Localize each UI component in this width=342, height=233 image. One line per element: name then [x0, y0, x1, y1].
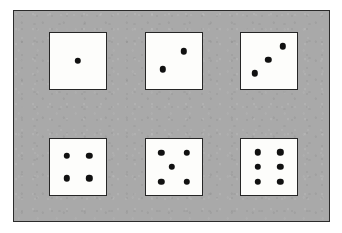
pip-icon [64, 153, 70, 159]
pip-icon [277, 178, 283, 184]
die-five [145, 138, 203, 196]
pip-icon [255, 178, 261, 184]
pip-icon [265, 57, 271, 63]
pip-icon [158, 178, 164, 184]
die-one [49, 32, 107, 90]
pip-icon [277, 149, 283, 155]
gray-background-panel [13, 10, 330, 222]
pip-icon [277, 164, 283, 170]
pip-icon [160, 66, 166, 72]
pip-icon [75, 58, 81, 64]
pip-icon [280, 43, 286, 49]
pip-icon [252, 70, 258, 76]
pip-icon [255, 149, 261, 155]
pip-icon [255, 164, 261, 170]
pip-icon [169, 164, 175, 170]
pip-icon [64, 175, 70, 181]
pip-icon [86, 153, 92, 159]
die-three [240, 32, 298, 90]
pip-icon [184, 150, 190, 156]
die-two [145, 32, 203, 90]
pip-icon [184, 178, 190, 184]
dice-figure [0, 0, 342, 233]
die-four [49, 138, 107, 196]
die-six [240, 138, 298, 196]
pip-icon [86, 175, 92, 181]
pip-icon [158, 150, 164, 156]
pip-icon [181, 48, 187, 54]
